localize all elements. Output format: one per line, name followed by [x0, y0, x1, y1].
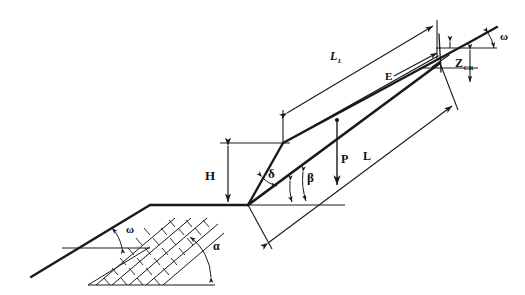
- length-l-dimension-arrow: [268, 106, 452, 243]
- length-ll-subscript: L: [337, 57, 342, 65]
- omega-upper-angle-group: [488, 33, 494, 48]
- length-l-extension-upper: [440, 63, 458, 110]
- beta-arc-outer: [303, 172, 306, 201]
- alpha-label: α: [213, 239, 220, 253]
- length-l-label: L: [363, 149, 371, 163]
- force-p-group: [335, 118, 339, 185]
- omega-lower-arc: [112, 228, 122, 248]
- length-ll-label: LL: [329, 49, 342, 65]
- zcr-subscript: CR: [464, 64, 475, 72]
- slope-stability-diagram: ω α H δ β P L: [0, 0, 525, 295]
- zcr-base: Z: [455, 56, 463, 70]
- height-label: H: [205, 168, 215, 183]
- slope-face: [248, 143, 283, 205]
- alpha-angle-group: [190, 237, 211, 277]
- diagram-canvas: ω α H δ β P L: [0, 0, 525, 295]
- delta-label: δ: [268, 166, 275, 181]
- thrust-e-label: E: [385, 70, 392, 82]
- slope-profile-group: [31, 27, 497, 277]
- force-p-label: P: [341, 152, 348, 166]
- bedding-line: [96, 218, 175, 285]
- failure-plane: [248, 63, 440, 205]
- length-l-dimension-group: [248, 63, 458, 249]
- omega-upper-label: ω: [500, 30, 508, 42]
- beta-label: β: [307, 170, 314, 185]
- upper-slope-extension: [470, 27, 497, 42]
- zcr-label: ZCR: [455, 56, 475, 72]
- force-p-origin-dot: [335, 118, 339, 122]
- length-ll-base: L: [329, 49, 337, 63]
- beta-arc: [290, 181, 292, 202]
- omega-upper-arc: [488, 33, 494, 48]
- alpha-arc: [190, 237, 211, 277]
- omega-lower-label: ω: [126, 223, 134, 235]
- lower-ground-surface: [31, 205, 150, 277]
- height-dimension-group: [220, 143, 290, 205]
